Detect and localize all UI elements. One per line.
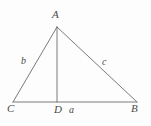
vertex-label-C: C: [7, 103, 14, 114]
segment-side-c-AB: [57, 27, 137, 102]
side-label-b: b: [21, 56, 26, 66]
segment-side-b-CA: [13, 27, 57, 102]
vertex-label-B: B: [131, 103, 138, 114]
geometry-figure: A B C D a b c: [0, 0, 151, 126]
vertex-label-A: A: [52, 9, 59, 20]
side-label-c: c: [102, 57, 106, 67]
vertex-label-D: D: [54, 104, 62, 115]
side-label-a: a: [69, 105, 74, 115]
